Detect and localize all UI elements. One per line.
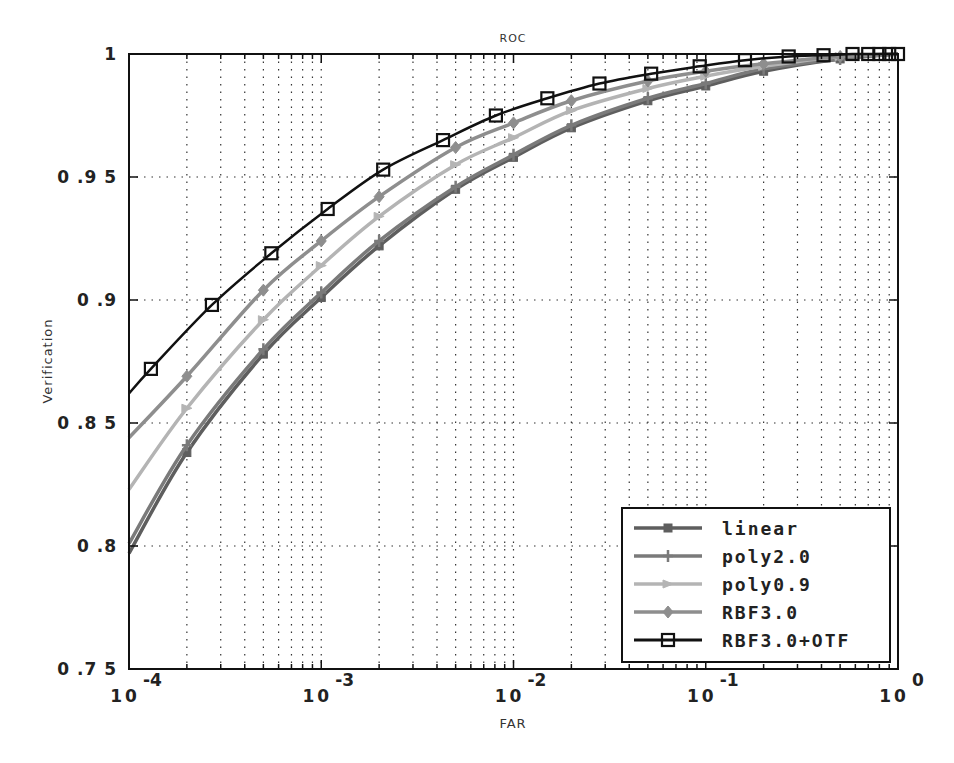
y-tick-label: 0 .8 xyxy=(77,536,117,556)
svg-text:10: 10 xyxy=(879,686,909,706)
y-tick-label: 1 xyxy=(104,44,117,64)
y-tick-label: 0 .9 5 xyxy=(57,167,117,187)
roc-chart: ROC 0 .7 50 .80 .8 50 .90 .9 51 10-410-3… xyxy=(0,0,954,763)
y-tick-label: 0 .8 5 xyxy=(57,413,117,433)
y-tick-label: 0 .7 5 xyxy=(57,659,117,679)
svg-text:0: 0 xyxy=(912,670,924,690)
svg-text:10: 10 xyxy=(495,686,525,706)
chart-title: ROC xyxy=(500,32,527,45)
square-marker-icon xyxy=(664,524,672,532)
legend-label: RBF3.0+OTF xyxy=(722,630,850,651)
y-axis-label: Verification xyxy=(40,318,55,403)
legend-label: RBF3.0 xyxy=(722,602,799,623)
svg-text:10: 10 xyxy=(110,686,140,706)
y-tick-label: 0 .9 xyxy=(77,290,117,310)
legend-label: poly2.0 xyxy=(722,546,812,567)
svg-text:-1: -1 xyxy=(720,670,739,690)
svg-text:10: 10 xyxy=(687,686,717,706)
svg-text:-4: -4 xyxy=(143,670,162,690)
x-axis-label: FAR xyxy=(499,716,526,731)
legend-label: poly0.9 xyxy=(722,574,812,595)
svg-text:-2: -2 xyxy=(528,670,547,690)
svg-text:10: 10 xyxy=(302,686,332,706)
legend-label: linear xyxy=(722,518,799,539)
svg-text:-3: -3 xyxy=(335,670,354,690)
legend: linearpoly2.0poly0.9RBF3.0RBF3.0+OTF xyxy=(622,508,890,662)
